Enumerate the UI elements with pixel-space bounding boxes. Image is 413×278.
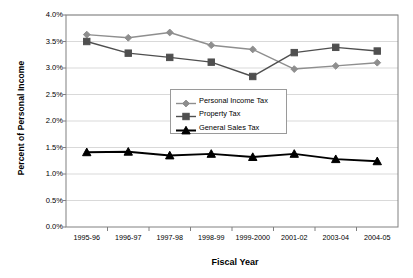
legend-item-label: General Sales Tax [199,123,259,132]
data-point-diamond [291,66,298,73]
x-axis-tick-label: 2003-04 [323,233,349,242]
x-axis-tick-label: 1995-96 [74,233,100,242]
data-point-diamond [83,31,90,38]
data-point-square [333,44,339,50]
data-point-diamond [374,59,381,66]
data-point-square [84,38,90,44]
legend-marker-triangle-icon [175,122,197,133]
x-axis-tick-label: 2004-05 [364,233,390,242]
data-point-diamond [249,46,256,53]
data-point-diamond [208,42,215,49]
x-axis-tick-label: 2001-02 [281,233,307,242]
legend-marker-diamond-icon [175,95,197,106]
legend-item-property-tax: Property Tax [175,107,240,121]
data-point-square [167,54,173,60]
legend-item-general-sales-tax: General Sales Tax [175,120,259,134]
data-point-square [125,50,131,56]
series-property-tax [84,38,381,79]
x-axis-title: Fiscal Year [75,257,395,267]
legend-item-label: Personal Income Tax [199,96,268,105]
data-point-diamond [183,100,190,107]
x-axis-tick-label: 1999-2000 [236,233,270,242]
data-point-square [183,113,189,119]
tax-burden-line-chart: Percent of Personal Income 4.0%3.5%3.0%2… [0,0,413,278]
series-general-sales-tax [83,148,382,165]
x-axis-tick-label: 1998-99 [198,233,224,242]
data-point-diamond [125,34,132,41]
data-point-square [374,48,380,54]
data-point-square [208,59,214,65]
data-point-square [250,73,256,79]
x-axis-tick-label: 1997-98 [157,233,183,242]
x-axis-tick-label: 1996-97 [115,233,141,242]
data-point-diamond [166,29,173,36]
data-point-square [291,49,297,55]
legend-marker-square-icon [175,108,197,119]
legend-item-personal-income-tax: Personal Income Tax [175,93,268,107]
chart-legend: Personal Income TaxProperty TaxGeneral S… [170,89,287,134]
legend-item-label: Property Tax [199,109,240,118]
